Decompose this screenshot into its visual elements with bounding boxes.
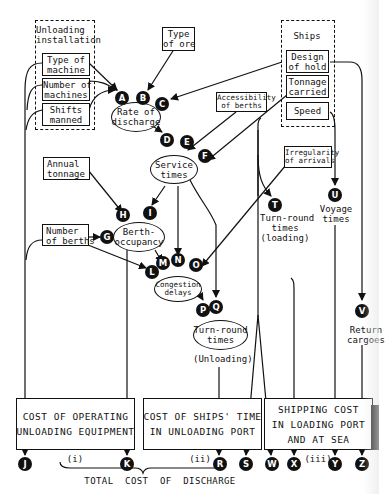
node-j: J (18, 457, 32, 471)
node-i: I (143, 206, 157, 220)
cost-box-ships-time: COST OF SHIPS' TIME IN UNLOADING PORT (143, 398, 262, 450)
node-p: P (196, 303, 210, 317)
annual-tonnage-box: Annual tonnage (43, 157, 90, 180)
node-o: O (189, 258, 203, 272)
cost-box-operating-equipment: COST OF OPERATING UNLOADING EQUIPMENT (16, 398, 135, 450)
unloading-caption: (Unloading) (193, 354, 249, 364)
type-of-ore-box: Type of ore (162, 27, 195, 51)
node-w: W (265, 457, 279, 471)
node-h: H (116, 208, 130, 222)
page-edge-fade (363, 0, 379, 494)
irregularity-of-arrivals-box: Irregularity of arrivals (284, 146, 332, 168)
unloading-installation-title: Unloading installation (36, 25, 94, 45)
numeral-iii: (iii) (300, 454, 336, 464)
node-u: U (328, 188, 342, 202)
node-r: R (213, 457, 227, 471)
node-c: C (155, 97, 169, 111)
rate-of-discharge-ellipse: Rate of discharge (111, 102, 161, 132)
node-q: Q (209, 300, 223, 314)
node-x: X (287, 457, 301, 471)
node-b: B (136, 91, 150, 105)
speed-box: Speed (286, 102, 329, 120)
voyage-times-label: Voyage times (316, 204, 356, 224)
numeral-ii: (ii) (185, 454, 215, 464)
cost-box-shipping: SHIPPING COST IN LOADING PORT AND AT SEA (264, 398, 373, 450)
number-of-berths-box: Number of berths (42, 224, 89, 246)
shifts-manned-box: Shifts manned (42, 103, 90, 126)
turn-round-loading-label: Turn-round times (loading) (260, 213, 310, 243)
node-e: E (180, 135, 194, 149)
node-n: N (171, 253, 185, 267)
type-of-machine-box: Type of machine (42, 53, 90, 76)
node-f: F (198, 149, 212, 163)
design-of-hold-box: Design of hold (286, 50, 329, 73)
tonnage-carried-box: Tonnage carried (286, 75, 329, 98)
node-a: A (115, 91, 129, 105)
ships-title: Ships (281, 31, 333, 41)
accessibility-of-berths-box: Accessibility of berths (216, 92, 267, 112)
service-times-ellipse: Service times (150, 155, 198, 184)
total-cost-label: TOTAL COST OF DISCHARGE (60, 476, 260, 486)
number-of-machines-box: Number of machines (42, 78, 90, 101)
node-g: G (100, 230, 114, 244)
congestion-delays-ellipse: Congestion delays (154, 276, 202, 302)
node-s: S (239, 457, 253, 471)
turn-round-unloading-ellipse: Turn-round times (193, 320, 248, 350)
node-k: K (120, 457, 134, 471)
numeral-i: (i) (60, 454, 90, 464)
node-t: T (268, 198, 282, 212)
node-d: D (160, 133, 174, 147)
node-m: M (156, 256, 170, 270)
berth-occupancy-ellipse: Berth- occupancy (113, 222, 165, 252)
